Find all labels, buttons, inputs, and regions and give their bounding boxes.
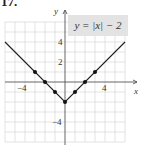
y-tick-neg4: −4 — [52, 117, 62, 127]
y-tick-4: 4 — [58, 37, 63, 47]
x-axis-label: x — [134, 86, 138, 96]
y-axis-label: y — [54, 6, 58, 16]
equation-label: y = |x| − 2 — [68, 15, 128, 36]
x-tick-4: 4 — [102, 83, 107, 93]
y-tick-2: 2 — [58, 57, 63, 67]
x-tick-neg4: −4 — [17, 83, 27, 93]
